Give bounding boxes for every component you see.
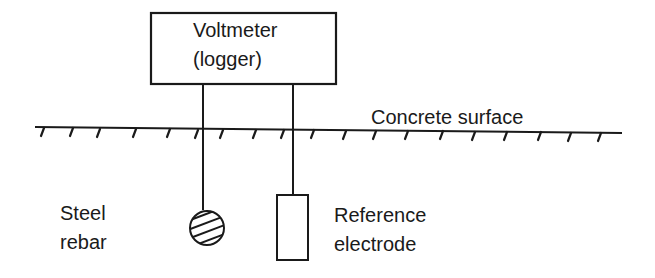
voltmeter-label-line1: Voltmeter bbox=[193, 18, 277, 42]
concrete-surface-line bbox=[35, 127, 622, 133]
reference-electrode-icon bbox=[277, 195, 308, 260]
concrete-surface-label: Concrete surface bbox=[371, 105, 523, 129]
rebar-label-line2: rebar bbox=[60, 230, 107, 254]
electrode-label-line1: Reference bbox=[334, 203, 426, 227]
rebar-label-line1: Steel bbox=[60, 201, 106, 225]
electrode-label-line2: electrode bbox=[334, 232, 416, 256]
voltmeter-label-line2: (logger) bbox=[193, 47, 262, 71]
steel-rebar-icon bbox=[185, 205, 230, 258]
